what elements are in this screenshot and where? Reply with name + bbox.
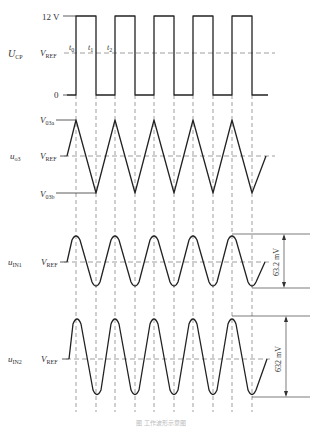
ucp-name: UCP: [8, 48, 23, 60]
t1-marker: t1: [88, 43, 93, 53]
t0-marker: t0: [69, 43, 74, 53]
uin2-ref-label: VREF: [41, 354, 58, 365]
uin2-name: uIN2: [8, 354, 22, 365]
panel-ucp: UCP 12 V VREF 0 t0 t1 t2: [8, 12, 275, 100]
uo3-ref-label: VREF: [40, 151, 57, 162]
t2-marker: t2: [107, 43, 112, 53]
panel-uin1: uIN1 VREF 63.2 mV: [8, 234, 310, 288]
uin1-ref-label: VREF: [41, 257, 58, 268]
uo3-triangle-wave: [67, 120, 266, 193]
ucp-bottom-label: 0: [54, 90, 59, 100]
timing-diagram: UCP 12 V VREF 0 t0 t1 t2 uo3 V03a VREF V…: [0, 0, 323, 431]
uo3-top-label: V03a: [40, 115, 55, 126]
uin1-amplitude-label: 63.2 mV: [272, 248, 281, 276]
uo3-name: uo3: [10, 151, 21, 162]
uo3-bottom-label: V03b: [40, 189, 55, 200]
panel-uin2: uIN2 VREF 632 mV: [8, 316, 310, 397]
panel-uo3: uo3 V03a VREF V03b: [10, 115, 275, 200]
uin2-amplitude-label: 632 mV: [274, 346, 283, 372]
ucp-ref-label: VREF: [40, 48, 57, 59]
uin1-sine-wave: [67, 236, 265, 286]
ucp-square-wave: [67, 16, 268, 95]
uin2-sine-wave: [69, 319, 267, 395]
ucp-top-label: 12 V: [42, 12, 60, 22]
figure-caption: 图 工作波形示意图: [136, 419, 186, 427]
uin1-name: uIN1: [8, 257, 22, 268]
